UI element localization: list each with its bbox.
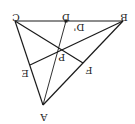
label-b: B	[120, 12, 127, 23]
label-f: F	[85, 65, 92, 76]
label-d-prime: D'	[74, 22, 85, 33]
label-c: C	[12, 12, 20, 23]
triangle-diagram: C D B D' P E F A	[0, 0, 135, 124]
label-d: D	[62, 12, 70, 23]
label-p: P	[58, 52, 65, 63]
label-e: E	[21, 68, 28, 79]
label-a: A	[40, 112, 49, 123]
cevian-cf	[15, 21, 83, 63]
side-ca	[15, 21, 43, 105]
